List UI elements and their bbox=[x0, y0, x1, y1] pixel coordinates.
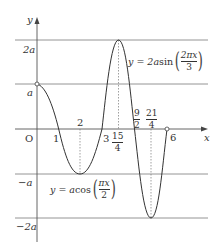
left-paren: ( bbox=[93, 178, 98, 200]
x-tick-9-2-den: 2 bbox=[134, 121, 140, 130]
x-tick-15-4: 15 4 bbox=[112, 132, 123, 153]
cos-frac-den: 2 bbox=[101, 191, 107, 200]
y-axis-label: y bbox=[27, 15, 33, 25]
cos-frac-num: πx bbox=[99, 179, 110, 188]
open-point-6 bbox=[165, 127, 169, 131]
x-tick-21-4-num: 21 bbox=[146, 109, 157, 118]
sin-label-fraction: 2πx 3 bbox=[181, 51, 198, 72]
x-tick-21-4: 21 4 bbox=[146, 109, 157, 130]
x-axis-arrow-icon bbox=[201, 127, 208, 132]
x-tick-21-4-den: 4 bbox=[149, 121, 155, 130]
x-tick-2: 2 bbox=[77, 118, 83, 128]
cos-label-fraction: πx 2 bbox=[99, 179, 110, 200]
x-tick-15-4-den: 4 bbox=[115, 144, 121, 153]
right-paren: ) bbox=[110, 178, 115, 200]
y-tick-neg-a: −a bbox=[18, 178, 32, 188]
x-tick-9-2: 9 2 bbox=[134, 109, 140, 130]
sin-curve-label: y = 2a sin ( 2πx 3 ) bbox=[128, 50, 205, 72]
cos-label-func: cos bbox=[75, 184, 91, 195]
x-tick-9-2-num: 9 bbox=[134, 109, 140, 118]
x-tick-15-4-num: 15 bbox=[112, 132, 123, 141]
cos-curve-label: y = a cos ( πx 2 ) bbox=[50, 178, 117, 200]
open-point-a bbox=[35, 82, 39, 86]
left-paren: ( bbox=[175, 50, 180, 72]
sin-frac-num: 2πx bbox=[181, 51, 198, 60]
sin-label-func: sin bbox=[159, 56, 173, 67]
cos-label-prefix: y = a bbox=[50, 184, 75, 195]
x-tick-1: 1 bbox=[53, 134, 59, 144]
sin-frac-den: 3 bbox=[186, 63, 192, 72]
right-paren: ) bbox=[198, 50, 203, 72]
y-axis-arrow-icon bbox=[35, 17, 40, 24]
sin-label-prefix: y = 2a bbox=[128, 56, 159, 67]
y-tick-2a: 2a bbox=[23, 45, 35, 55]
x-tick-6: 6 bbox=[170, 133, 176, 143]
y-tick-a: a bbox=[27, 88, 33, 98]
graph-figure bbox=[0, 0, 221, 250]
x-axis-label: x bbox=[204, 133, 210, 143]
origin-label: O bbox=[25, 134, 33, 144]
y-tick-neg-2a: −2a bbox=[16, 222, 37, 232]
x-tick-3: 3 bbox=[103, 134, 109, 144]
